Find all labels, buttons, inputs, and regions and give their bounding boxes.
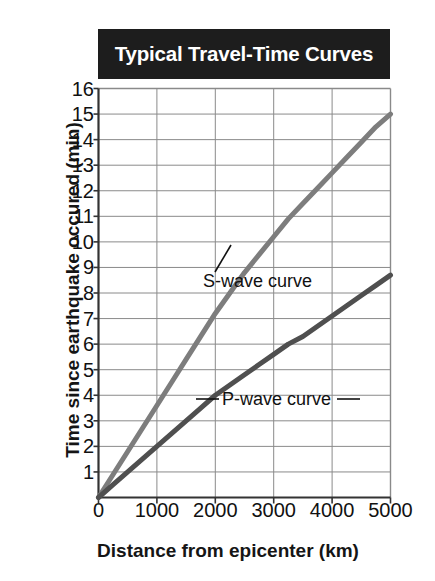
travel-time-curves-figure: Typical Travel-Time Curves Time since ea… bbox=[0, 0, 435, 581]
axis-ticks bbox=[94, 89, 391, 504]
gridlines bbox=[99, 89, 391, 498]
data-series bbox=[99, 114, 391, 497]
annotation-leader-lines bbox=[196, 245, 360, 399]
leader-line-s-wave bbox=[215, 245, 231, 272]
p-wave-curve-label: P-wave curve bbox=[222, 390, 331, 408]
series-line-p-wave-curve bbox=[99, 275, 391, 497]
s-wave-curve-label: S-wave curve bbox=[203, 272, 312, 290]
